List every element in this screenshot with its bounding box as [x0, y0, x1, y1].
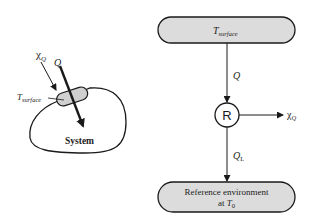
device-label: R	[222, 108, 231, 123]
heat-label: Q	[54, 57, 62, 68]
system-figure: χQ Q Tsurface System	[17, 48, 126, 153]
heat-in-label: Q	[233, 70, 241, 81]
exergy-out-label: χQ	[286, 109, 296, 121]
surface-temp-label: Tsurface	[17, 92, 41, 103]
heat-out-label: QL	[233, 150, 244, 162]
flow-diagram: Tsurface Q R χQ QL Reference environment…	[158, 17, 296, 212]
exergy-label: χQ	[35, 48, 46, 63]
system-label: System	[65, 136, 94, 146]
reference-environment-label: Reference environment	[184, 187, 269, 197]
diagram-canvas: χQ Q Tsurface System Tsurface Q R χQ QL …	[0, 0, 317, 222]
